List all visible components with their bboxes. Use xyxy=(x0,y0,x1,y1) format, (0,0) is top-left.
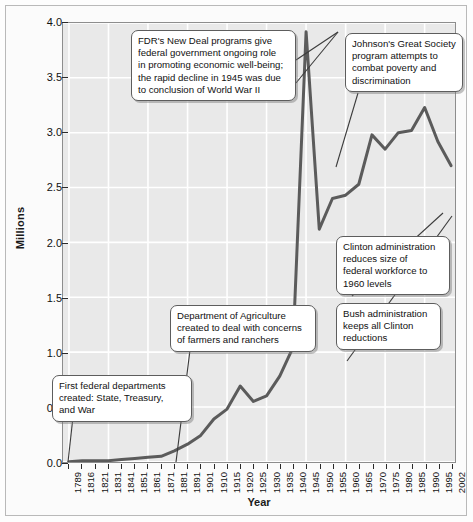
x-tick-label: 1975 xyxy=(390,472,401,493)
x-axis-ticks: 1789181618211831184118511861187118811891… xyxy=(62,464,456,520)
x-tick-mark xyxy=(187,464,188,469)
callout-bush-line3: reductions xyxy=(343,332,434,344)
x-tick-label: 1910 xyxy=(218,472,229,493)
x-tick-mark xyxy=(386,464,387,469)
chart-figure: Millions 0.00.51.01.52.02.53.03.54.0 178… xyxy=(0,0,473,522)
x-tick-label: 1920 xyxy=(244,472,255,493)
x-tick-mark xyxy=(108,464,109,469)
x-tick-mark xyxy=(373,464,374,469)
callout-fdr-line1: FDR's New Deal programs give xyxy=(138,35,289,47)
x-tick-label: 1816 xyxy=(85,472,96,493)
y-tick-mark xyxy=(62,187,68,188)
y-tick-label: 4.0 xyxy=(28,16,62,28)
x-tick-label: 1935 xyxy=(284,472,295,493)
x-tick-mark xyxy=(161,464,162,469)
y-tick-label: 1.5 xyxy=(28,292,62,304)
x-tick-mark xyxy=(214,464,215,469)
callout-first-departments-line2: created: State, Treasury, xyxy=(59,392,185,404)
x-tick-mark xyxy=(333,464,334,469)
callout-agriculture-line2: created to deal with concerns xyxy=(177,322,309,334)
x-axis-title: Year xyxy=(62,496,456,508)
callout-clinton-line4: 1960 levels xyxy=(343,278,443,290)
callout-fdr: FDR's New Deal programs give federal gov… xyxy=(131,30,296,101)
x-tick-mark xyxy=(399,464,400,469)
x-tick-label: 1980 xyxy=(403,472,414,493)
y-tick-mark xyxy=(62,22,68,23)
x-tick-label: 1970 xyxy=(377,472,388,493)
callout-bush-line2: keeps all Clinton xyxy=(343,320,434,332)
callout-clinton-line1: Clinton administration xyxy=(343,241,443,253)
x-tick-label: 1995 xyxy=(443,472,454,493)
x-tick-mark xyxy=(147,464,148,469)
x-tick-mark xyxy=(346,464,347,469)
x-tick-mark xyxy=(81,464,82,469)
x-tick-mark xyxy=(253,464,254,469)
x-tick-label: 1930 xyxy=(271,472,282,493)
callout-johnson-line3: combat poverty and xyxy=(352,62,456,74)
x-tick-mark xyxy=(227,464,228,469)
callout-bush: Bush administration keeps all Clinton re… xyxy=(336,303,441,350)
callout-johnson-line1: Johnson's Great Society xyxy=(352,38,456,50)
callout-fdr-line4: the rapid decline in 1945 was due xyxy=(138,72,289,84)
callout-agriculture-line1: Department of Agriculture xyxy=(177,310,309,322)
y-tick-mark xyxy=(62,353,68,354)
y-tick-mark xyxy=(62,132,68,133)
callout-fdr-line2: federal government ongoing role xyxy=(138,47,289,59)
callout-agriculture-line3: of farmers and ranchers xyxy=(177,334,309,346)
x-tick-mark xyxy=(412,464,413,469)
callout-fdr-line5: to conclusion of World War II xyxy=(138,84,289,96)
x-tick-label: 1831 xyxy=(112,472,123,493)
x-tick-label: 1985 xyxy=(416,472,427,493)
x-tick-mark xyxy=(240,464,241,469)
x-tick-label: 1990 xyxy=(430,472,441,493)
x-tick-label: 1789 xyxy=(72,472,83,493)
x-tick-mark xyxy=(439,464,440,469)
x-tick-label: 1871 xyxy=(165,472,176,493)
x-tick-label: 1821 xyxy=(99,472,110,493)
callout-first-departments-line1: First federal departments xyxy=(59,380,185,392)
callout-clinton-line2: reduces size of xyxy=(343,253,443,265)
x-tick-mark xyxy=(293,464,294,469)
x-tick-mark xyxy=(121,464,122,469)
x-tick-label: 2002 xyxy=(456,472,467,493)
x-tick-label: 1955 xyxy=(337,472,348,493)
y-tick-label: 2.5 xyxy=(28,181,62,193)
y-tick-label: 2.0 xyxy=(28,237,62,249)
x-tick-label: 1851 xyxy=(138,472,149,493)
x-tick-label: 1945 xyxy=(310,472,321,493)
x-tick-label: 1940 xyxy=(297,472,308,493)
y-tick-label: 0.0 xyxy=(28,457,62,469)
x-tick-mark xyxy=(200,464,201,469)
y-tick-label: 3.5 xyxy=(28,71,62,83)
callout-clinton: Clinton administration reduces size of f… xyxy=(336,236,450,295)
y-tick-label: 1.0 xyxy=(28,347,62,359)
x-tick-label: 1925 xyxy=(257,472,268,493)
x-tick-mark xyxy=(280,464,281,469)
x-tick-mark xyxy=(320,464,321,469)
x-tick-mark xyxy=(452,464,453,469)
x-tick-mark xyxy=(359,464,360,469)
callout-bush-line1: Bush administration xyxy=(343,308,434,320)
callout-fdr-line3: in promoting economic well-being; xyxy=(138,59,289,71)
callout-agriculture: Department of Agriculture created to dea… xyxy=(170,305,316,352)
x-tick-mark xyxy=(306,464,307,469)
callout-johnson-line4: discrimination xyxy=(352,75,456,87)
callout-johnson-line2: program attempts to xyxy=(352,50,456,62)
x-tick-label: 1891 xyxy=(191,472,202,493)
x-tick-mark xyxy=(267,464,268,469)
callout-first-departments: First federal departments created: State… xyxy=(52,375,192,422)
x-tick-label: 1965 xyxy=(363,472,374,493)
x-tick-mark xyxy=(426,464,427,469)
x-tick-mark xyxy=(68,464,69,469)
x-tick-label: 1881 xyxy=(178,472,189,493)
y-tick-mark xyxy=(62,77,68,78)
x-tick-label: 1841 xyxy=(125,472,136,493)
y-tick-mark xyxy=(62,298,68,299)
callout-johnson: Johnson's Great Society program attempts… xyxy=(345,33,463,92)
y-tick-label: 3.0 xyxy=(28,126,62,138)
x-tick-label: 1901 xyxy=(204,472,215,493)
x-tick-mark xyxy=(134,464,135,469)
x-tick-mark xyxy=(95,464,96,469)
callout-clinton-line3: federal workforce to xyxy=(343,265,443,277)
x-tick-label: 1915 xyxy=(231,472,242,493)
